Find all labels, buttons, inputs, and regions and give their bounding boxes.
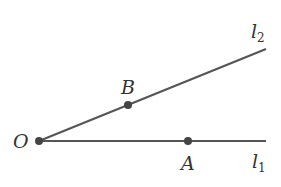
label-l1-sub: 1 xyxy=(258,161,266,175)
point-b xyxy=(124,101,132,109)
ray-l2 xyxy=(39,49,266,141)
label-b: B xyxy=(120,76,135,98)
label-l1: l1 xyxy=(252,150,266,175)
label-a: A xyxy=(179,152,195,174)
point-o xyxy=(35,137,43,145)
point-a xyxy=(184,137,192,145)
label-o: O xyxy=(13,130,29,152)
label-l2: l2 xyxy=(251,20,265,45)
angle-diagram: O B A l1 l2 xyxy=(0,0,281,187)
label-l2-sub: 2 xyxy=(257,31,265,45)
